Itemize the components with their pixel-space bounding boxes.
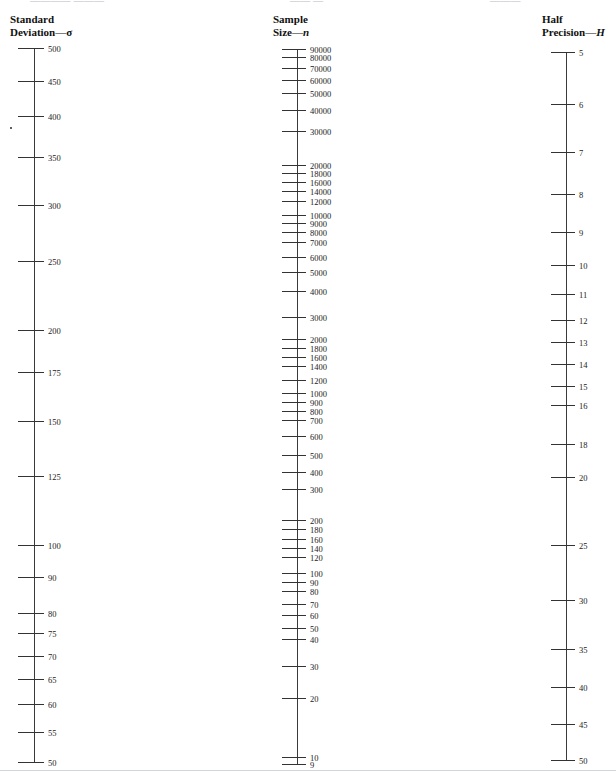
tick-half-precision-16 — [551, 405, 575, 406]
scale-title-dash-half-precision: — — [585, 26, 596, 38]
tick-label-half-precision-9: 9 — [579, 229, 583, 238]
tick-half-precision-35 — [551, 649, 575, 650]
tick-label-half-precision-25: 25 — [579, 542, 588, 551]
tick-half-precision-45 — [551, 724, 575, 725]
tick-label-half-precision-45: 45 — [579, 721, 588, 730]
tick-half-precision-14 — [551, 364, 575, 365]
tick-label-half-precision-8: 8 — [579, 191, 583, 200]
page-bottom-rule — [0, 770, 616, 771]
tick-label-half-precision-16: 16 — [579, 402, 588, 411]
tick-label-half-precision-40: 40 — [579, 684, 588, 693]
tick-half-precision-25 — [551, 545, 575, 546]
tick-label-half-precision-35: 35 — [579, 646, 588, 655]
tick-label-half-precision-5: 5 — [579, 49, 583, 58]
tick-label-half-precision-30: 30 — [579, 597, 588, 606]
tick-half-precision-20 — [551, 477, 575, 478]
tick-half-precision-12 — [551, 320, 575, 321]
tick-label-half-precision-11: 11 — [579, 291, 587, 300]
tick-half-precision-8 — [551, 194, 575, 195]
tick-half-precision-15 — [551, 386, 575, 387]
scale-title-half-precision: HalfPrecision—H — [542, 13, 605, 38]
tick-half-precision-9 — [551, 232, 575, 233]
scale-title-line1-half-precision: Half — [542, 13, 605, 26]
tick-half-precision-18 — [551, 444, 575, 445]
tick-half-precision-7 — [551, 152, 575, 153]
tick-label-half-precision-6: 6 — [579, 101, 583, 110]
tick-label-half-precision-50: 50 — [579, 757, 588, 766]
tick-label-half-precision-13: 13 — [579, 339, 588, 348]
tick-half-precision-40 — [551, 687, 575, 688]
tick-half-precision-6 — [551, 104, 575, 105]
scale-title-word-half-precision: Precision — [542, 26, 585, 38]
nomogram-figure: StandardDeviation—σ500450400350300250200… — [0, 0, 616, 775]
tick-half-precision-50 — [551, 760, 575, 761]
tick-half-precision-10 — [551, 265, 575, 266]
scale-half-precision: HalfPrecision—H5678910111213141516182025… — [0, 0, 616, 775]
tick-label-half-precision-7: 7 — [579, 149, 583, 158]
tick-half-precision-30 — [551, 600, 575, 601]
tick-half-precision-5 — [551, 52, 575, 53]
tick-label-half-precision-15: 15 — [579, 383, 588, 392]
tick-label-half-precision-20: 20 — [579, 474, 588, 483]
scale-title-line2-half-precision: Precision—H — [542, 26, 605, 39]
tick-label-half-precision-18: 18 — [579, 441, 588, 450]
tick-label-half-precision-10: 10 — [579, 262, 588, 271]
tick-label-half-precision-14: 14 — [579, 361, 588, 370]
tick-label-half-precision-12: 12 — [579, 317, 588, 326]
scale-symbol-half-precision: H — [596, 26, 605, 38]
tick-half-precision-11 — [551, 294, 575, 295]
tick-half-precision-13 — [551, 342, 575, 343]
